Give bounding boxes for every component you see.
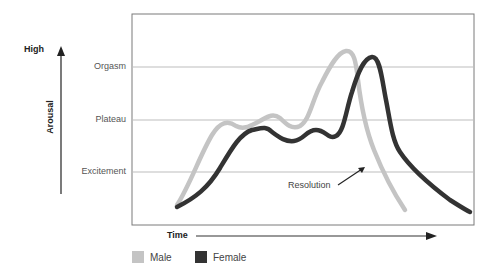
legend-swatch-female <box>195 251 207 263</box>
legend-label-male: Male <box>150 252 172 263</box>
resolution-label: Resolution <box>288 180 331 190</box>
resolution-arrow <box>338 167 365 185</box>
x-axis-arrow <box>196 232 437 240</box>
x-axis-title: Time <box>167 230 188 240</box>
legend-female: Female <box>195 251 246 263</box>
y-axis-arrow <box>57 46 65 194</box>
legend-label-female: Female <box>213 252 246 263</box>
diagram-canvas <box>0 0 498 276</box>
legend-male: Male <box>132 251 172 263</box>
legend-swatch-male <box>132 251 144 263</box>
